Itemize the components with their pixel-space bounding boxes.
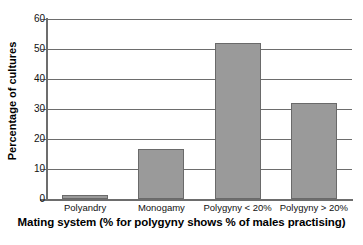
x-axis-spine — [40, 199, 353, 201]
y-tick-label: 40 — [19, 74, 45, 84]
y-tick-label: 30 — [19, 104, 45, 114]
x-tick-label: Polygyny > 20% — [276, 202, 352, 214]
bar[interactable] — [138, 149, 184, 199]
bar-chart-figure: Percentage of cultures 0102030405060 Pol… — [0, 0, 363, 245]
bar[interactable] — [291, 103, 337, 199]
x-tick-label: Polyandry — [47, 202, 123, 214]
bar[interactable] — [215, 43, 261, 199]
y-tick-label: 10 — [19, 164, 45, 174]
y-tick-label: 50 — [19, 44, 45, 54]
x-tick-label: Monogamy — [123, 202, 199, 214]
bar[interactable] — [62, 195, 108, 200]
y-tick-label: 20 — [19, 134, 45, 144]
bar-slot — [200, 19, 276, 199]
x-tick-label: Polygyny < 20% — [200, 202, 276, 214]
y-tick-label: 0 — [19, 194, 45, 204]
bar-slot — [123, 19, 199, 199]
bar-slot — [47, 19, 123, 199]
bar-slot — [276, 19, 352, 199]
y-tick-label: 60 — [19, 14, 45, 24]
plot-area — [47, 19, 352, 199]
y-axis-title: Percentage of cultures — [6, 26, 18, 176]
x-axis-title: Mating system (% for polygyny shows % of… — [0, 216, 363, 228]
